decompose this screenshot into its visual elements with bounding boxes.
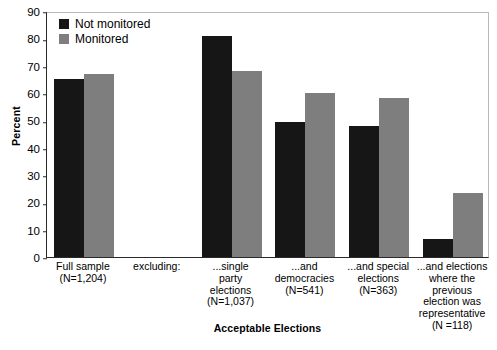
y-axis-tick-label: 0 — [34, 253, 43, 265]
x-axis-category-label: ...and specialelections(N=363) — [341, 261, 415, 296]
y-axis-tick: 10 — [27, 226, 47, 238]
bar-monitored — [379, 98, 409, 257]
bar-monitored — [232, 71, 262, 257]
y-axis-tick: 20 — [27, 199, 47, 211]
y-axis-tick-label: 90 — [27, 7, 43, 19]
bar-not-monitored — [349, 126, 379, 257]
x-axis-category-label-line: (N=541) — [268, 285, 342, 297]
chart-legend: Not monitoredMonitored — [59, 18, 150, 47]
y-axis-tick-label: 50 — [27, 117, 43, 129]
y-axis-tick-mark — [43, 259, 47, 260]
y-axis-tick: 40 — [27, 144, 47, 156]
y-axis-tick: 0 — [34, 253, 47, 265]
x-axis-title: Acceptable Elections — [46, 322, 489, 334]
bar-not-monitored — [54, 79, 84, 257]
x-axis-category-label-line: where the — [415, 273, 489, 285]
y-axis-tick-label: 40 — [27, 144, 43, 156]
x-axis-category-label-line: party — [194, 273, 268, 285]
y-axis-tick-label: 20 — [27, 199, 43, 211]
x-axis-category-label-line: elections — [341, 273, 415, 285]
bar-monitored — [453, 193, 483, 257]
y-axis-tick: 80 — [27, 35, 47, 47]
x-axis-category-label-line: (N=363) — [341, 285, 415, 297]
bar-group — [195, 13, 269, 257]
y-axis-tick: 50 — [27, 117, 47, 129]
x-axis-category-label: ...singlepartyelections(N=1,037) — [194, 261, 268, 308]
legend-swatch-icon — [59, 34, 69, 44]
bar-not-monitored — [275, 122, 305, 257]
legend-item[interactable]: Monitored — [59, 33, 150, 46]
x-axis-category-label-line: (N=1,037) — [194, 296, 268, 308]
bars-layer — [47, 13, 488, 257]
legend-item-label: Monitored — [75, 33, 128, 46]
x-axis-category-label-line: excluding: — [120, 261, 194, 273]
legend-swatch-icon — [59, 19, 69, 29]
y-axis-tick: 60 — [27, 89, 47, 101]
x-axis-category-label-line: democracies — [268, 273, 342, 285]
x-axis-category-label-line: (N=1,204) — [46, 273, 120, 285]
y-axis-tick: 70 — [27, 62, 47, 74]
y-axis-tick-label: 80 — [27, 35, 43, 47]
plot-area: 0102030405060708090 Not monitoredMonitor… — [46, 12, 489, 258]
y-axis-tick-label: 60 — [27, 89, 43, 101]
y-axis-title: Percent — [10, 66, 22, 186]
y-axis-tick: 90 — [27, 7, 47, 19]
y-axis-tick-label: 70 — [27, 62, 43, 74]
y-axis-tick: 30 — [27, 171, 47, 183]
bar-group — [416, 13, 490, 257]
bar-monitored — [84, 74, 114, 257]
bar-not-monitored — [423, 239, 453, 257]
x-axis-category-label: ...anddemocracies(N=541) — [268, 261, 342, 296]
bar-group — [121, 13, 195, 257]
legend-item-label: Not monitored — [75, 18, 150, 31]
x-axis-category-label: Full sample(N=1,204) — [46, 261, 120, 285]
bar-monitored — [305, 93, 335, 257]
bar-group — [342, 13, 416, 257]
bar-chart: Percent 0102030405060708090 Not monitore… — [0, 0, 497, 350]
legend-item[interactable]: Not monitored — [59, 18, 150, 31]
bar-group — [269, 13, 343, 257]
y-axis-tick-label: 10 — [27, 226, 43, 238]
bar-not-monitored — [202, 36, 232, 257]
x-axis-category-label: excluding: — [120, 261, 194, 273]
bar-group — [47, 13, 121, 257]
y-axis-tick-label: 30 — [27, 171, 43, 183]
